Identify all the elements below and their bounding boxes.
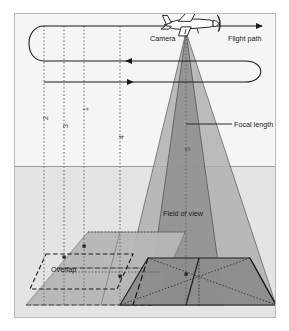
- ground-footprint-dark: [120, 258, 276, 305]
- callout-number-2: 2: [42, 116, 49, 120]
- field-of-view-label: Field of view: [163, 209, 204, 218]
- camera-label: Camera: [150, 34, 176, 43]
- callout-number-5: 5: [184, 147, 191, 151]
- callout-number-4: 4: [118, 135, 125, 139]
- focal-length-label: Focal length: [234, 120, 273, 129]
- diagram-canvas: Camera Flight path Focal length Field of…: [0, 0, 289, 331]
- photogrammetry-diagram-svg: Camera Flight path Focal length Field of…: [0, 0, 289, 331]
- overlap-label: Overlap: [51, 265, 76, 274]
- callout-number-1: 1: [82, 107, 89, 111]
- diagram-body: Camera Flight path Focal length Field of…: [14, 12, 276, 318]
- callout-number-3: 3: [62, 124, 69, 128]
- flight-path-label: Flight path: [228, 34, 262, 43]
